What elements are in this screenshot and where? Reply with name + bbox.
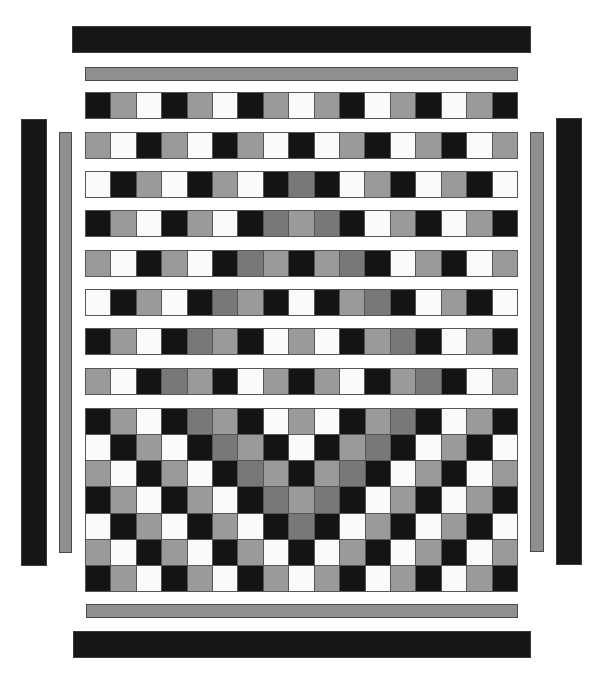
- tile-light-gray: [289, 487, 313, 512]
- tile-light-gray: [315, 93, 340, 118]
- tile-black: [137, 133, 162, 158]
- tile-dark-gray: [315, 211, 340, 236]
- tile-light-gray: [238, 290, 263, 315]
- tile-black: [467, 290, 492, 315]
- tile-white: [86, 514, 110, 539]
- tile-black: [340, 409, 364, 434]
- tile-black: [264, 290, 289, 315]
- tile-white: [340, 369, 365, 394]
- tile-white: [289, 566, 313, 591]
- tile-black: [391, 514, 415, 539]
- tile-black: [493, 329, 517, 354]
- tile-white: [493, 435, 517, 460]
- tile-black: [340, 211, 365, 236]
- tile-white: [366, 487, 390, 512]
- checker-strip-8: [85, 368, 518, 395]
- tile-black: [289, 369, 314, 394]
- tile-dark-gray: [340, 461, 364, 486]
- tile-white: [442, 211, 467, 236]
- tile-black: [213, 540, 237, 565]
- tile-white: [442, 487, 466, 512]
- tile-black: [264, 172, 289, 197]
- tile-light-gray: [86, 540, 110, 565]
- tile-black: [238, 409, 262, 434]
- tile-black: [238, 487, 262, 512]
- tile-black: [467, 435, 491, 460]
- tile-black: [366, 461, 390, 486]
- tile-light-gray: [264, 93, 289, 118]
- tile-white: [188, 133, 213, 158]
- tile-light-gray: [340, 290, 365, 315]
- tile-light-gray: [137, 435, 161, 460]
- tile-white: [289, 290, 314, 315]
- tile-light-gray: [391, 566, 415, 591]
- tile-black: [467, 514, 491, 539]
- tile-white: [264, 329, 289, 354]
- tile-white: [340, 172, 365, 197]
- tile-light-gray: [188, 93, 213, 118]
- checker-strip-6: [85, 289, 518, 316]
- tile-white: [365, 93, 390, 118]
- tile-light-gray: [442, 514, 466, 539]
- tile-light-gray: [493, 251, 517, 276]
- tile-black: [315, 514, 339, 539]
- tile-black: [238, 329, 263, 354]
- tile-black: [188, 172, 213, 197]
- tile-white: [188, 461, 212, 486]
- tile-dark-gray: [264, 211, 289, 236]
- tile-light-gray: [238, 540, 262, 565]
- tile-white: [315, 540, 339, 565]
- tile-light-gray: [391, 487, 415, 512]
- tile-light-gray: [289, 211, 314, 236]
- bottom-black-bar: [73, 631, 531, 658]
- tile-black: [416, 93, 441, 118]
- tile-white: [137, 487, 161, 512]
- left-black-bar: [21, 119, 47, 566]
- tile-black: [315, 172, 340, 197]
- tile-white: [137, 93, 162, 118]
- tile-light-gray: [340, 540, 364, 565]
- tile-light-gray: [213, 409, 237, 434]
- tile-black: [264, 514, 288, 539]
- tile-white: [264, 133, 289, 158]
- tile-white: [442, 93, 467, 118]
- tile-light-gray: [188, 487, 212, 512]
- tile-black: [442, 540, 466, 565]
- tile-white: [391, 133, 416, 158]
- tile-dark-gray: [264, 487, 288, 512]
- tile-black: [442, 461, 466, 486]
- tile-light-gray: [289, 329, 314, 354]
- tile-white: [111, 133, 136, 158]
- tile-black: [137, 251, 162, 276]
- tile-black: [264, 435, 288, 460]
- tile-light-gray: [111, 487, 135, 512]
- tile-black: [365, 369, 390, 394]
- tile-light-gray: [213, 329, 238, 354]
- tile-dark-gray: [289, 172, 314, 197]
- tile-white: [213, 93, 238, 118]
- tile-light-gray: [467, 487, 491, 512]
- tile-dark-gray: [238, 461, 262, 486]
- tile-black: [162, 211, 187, 236]
- tile-black: [467, 172, 492, 197]
- tile-white: [238, 172, 263, 197]
- tile-black: [442, 133, 467, 158]
- tile-light-gray: [162, 540, 186, 565]
- tile-white: [111, 251, 136, 276]
- tile-white: [137, 566, 161, 591]
- tile-black: [86, 329, 111, 354]
- tile-black: [315, 435, 339, 460]
- tile-light-gray: [366, 409, 390, 434]
- checker-strip-1: [85, 92, 518, 119]
- checker-strip-2: [85, 132, 518, 159]
- checker-strip-7: [85, 328, 518, 355]
- tile-black: [111, 514, 135, 539]
- tile-black: [238, 211, 263, 236]
- tile-dark-gray: [289, 514, 313, 539]
- tile-black: [391, 435, 415, 460]
- tile-black: [442, 369, 467, 394]
- tile-white: [366, 566, 390, 591]
- tile-light-gray: [137, 514, 161, 539]
- tile-white: [493, 290, 517, 315]
- tile-black: [162, 566, 186, 591]
